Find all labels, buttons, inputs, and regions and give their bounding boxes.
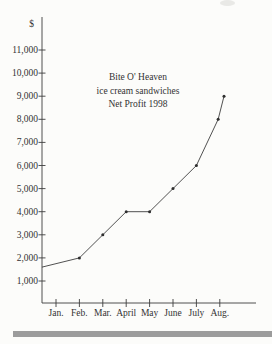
y-tick-label: 5,000 — [0, 183, 38, 195]
data-point-marker — [148, 210, 151, 213]
net-profit-line — [42, 96, 224, 267]
y-tick-label: 7,000 — [0, 136, 38, 148]
data-point-marker — [172, 187, 175, 190]
y-tick-label: 3,000 — [0, 229, 38, 241]
chart-title-line-2: ice cream sandwiches — [58, 85, 218, 99]
data-point-marker — [125, 210, 128, 213]
page-divider-bar — [13, 331, 272, 337]
y-tick-label: 9,000 — [0, 90, 38, 102]
data-point-marker — [217, 118, 220, 121]
y-tick-label: 6,000 — [0, 160, 38, 172]
y-tick-label: 10,000 — [0, 67, 38, 79]
book-figure-page: $ Bite O' Heaven ice cream sandwiches Ne… — [0, 0, 272, 344]
y-tick-label: 2,000 — [0, 252, 38, 264]
y-tick-label: 11,000 — [0, 44, 38, 56]
chart-title-line-1: Bite O' Heaven — [58, 71, 218, 85]
data-point-marker — [223, 95, 226, 98]
y-axis-unit-label: $ — [0, 19, 34, 29]
y-tick-label: 1,000 — [0, 275, 38, 287]
x-tick-label: Aug. — [202, 308, 238, 318]
data-point-marker — [78, 256, 81, 259]
chart-title: Bite O' Heaven ice cream sandwiches Net … — [58, 71, 218, 112]
data-point-marker — [101, 233, 104, 236]
scan-smudge-artifact — [220, 0, 235, 6]
y-tick-label: 4,000 — [0, 206, 38, 218]
chart-title-line-3: Net Profit 1998 — [58, 98, 218, 112]
data-point-marker — [195, 164, 198, 167]
y-tick-label: 8,000 — [0, 113, 38, 125]
profit-line-chart — [0, 0, 272, 344]
